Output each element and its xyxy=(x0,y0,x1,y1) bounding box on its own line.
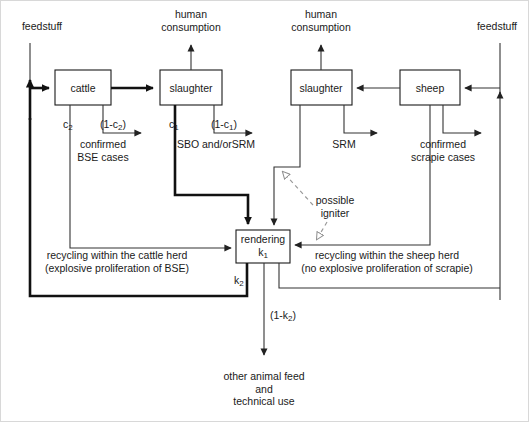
label-feedstuff-right: feedstuff xyxy=(477,20,517,33)
confirmed-scrapie-line xyxy=(443,105,481,133)
label-human-consumption-right: humanconsumption xyxy=(291,8,351,33)
label-confirmed-bse-cases: confirmedBSE cases xyxy=(77,138,128,163)
possible-igniter-lower-dashed-arrow xyxy=(317,222,327,239)
label-one-minus-c1: (1-c1) xyxy=(211,118,237,133)
label-possible-igniter: possibleigniter xyxy=(316,194,355,219)
label-confirmed-scrapie-cases: confirmedscrapie cases xyxy=(411,138,475,163)
label-feedstuff-left: feedstuff xyxy=(22,20,62,33)
box-label-slaughter-sheep: slaughter xyxy=(299,82,342,95)
box-label-slaughter-cattle: slaughter xyxy=(169,82,212,95)
label-srm: SRM xyxy=(332,138,355,151)
label-one-minus-c2: (1-c2) xyxy=(100,118,126,133)
label-other-animal-feed: other animal feedandtechnical use xyxy=(223,370,304,408)
label-sbo-and-or-srm: SBO and/orSRM xyxy=(177,138,255,151)
label-one-minus-k2: (1-k2) xyxy=(270,309,296,324)
label-c1: c1 xyxy=(169,118,179,133)
box-label-sheep: sheep xyxy=(416,82,445,95)
label-c2: c2 xyxy=(63,118,73,133)
box-label-cattle: cattle xyxy=(70,82,95,95)
label-recycling-sheep-herd: recycling within the sheep herd(no explo… xyxy=(301,249,473,274)
box-label-rendering: renderingk1 xyxy=(241,233,285,260)
flow-diagram-svg xyxy=(0,0,530,423)
c2-to-rendering-line xyxy=(70,105,231,248)
srm-to-rendering-line xyxy=(274,105,300,225)
label-k2: k2 xyxy=(234,274,244,289)
label-human-consumption-left: humanconsumption xyxy=(161,8,221,33)
possible-igniter-upper-dashed-arrow xyxy=(283,172,313,205)
sheep-recycling-line xyxy=(295,105,430,245)
diagram-canvas: feedstuff feedstuff humanconsumption hum… xyxy=(0,0,530,423)
label-recycling-cattle-herd: recycling within the cattle herd(explosi… xyxy=(45,249,189,274)
srm-branch-line xyxy=(344,105,377,133)
